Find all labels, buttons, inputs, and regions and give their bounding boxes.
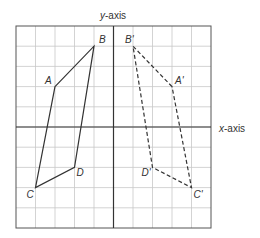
y-axis-label: y-axis [99, 10, 126, 21]
vertex-label-c-prime: C' [194, 189, 204, 200]
vertex-label-b: B [99, 34, 106, 45]
vertex-label-b-prime: B' [125, 34, 135, 45]
vertex-label-a-prime: A' [174, 75, 185, 86]
vertex-label-c: C [27, 189, 35, 200]
x-axis-label: x-axis [218, 123, 245, 134]
vertex-label-d-prime: D' [142, 167, 152, 178]
quadrilateral-a-prime-b-prime-c-prime-d-prime [133, 46, 192, 187]
quadrilateral-abcd [36, 46, 95, 187]
vertex-labels: ABDCA'B'D'C' [27, 34, 204, 199]
vertex-label-a: A [44, 75, 52, 86]
vertex-label-d: D [77, 167, 84, 178]
coordinate-plane: y-axis x-axis ABDCA'B'D'C' [0, 0, 260, 238]
